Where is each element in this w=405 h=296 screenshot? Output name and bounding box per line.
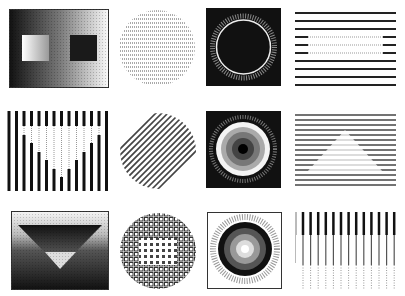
tile-black-ring [206,8,281,86]
pattern-image [118,8,196,88]
tile-horizontal-lines-gap [295,11,396,87]
tile-horizontal-lines-triangle [295,114,396,188]
tile-checker-disk [119,212,197,290]
tile-gradient-rectangles [9,9,109,88]
pattern-image [119,112,197,190]
pattern-image [7,111,109,191]
pattern-image [295,11,396,87]
tile-framed-rings [207,212,282,289]
pattern-image [206,111,281,188]
tile-dotted-disk [118,8,196,88]
pattern-image [206,8,281,86]
pattern-image [295,210,396,290]
pattern-image [11,211,109,290]
tile-vertical-lines-fade [295,210,396,290]
pattern-image [207,212,282,289]
pattern-image [119,212,197,290]
tile-gradient-triangles [11,211,109,290]
pattern-image [295,114,396,188]
tile-vertical-bars [7,111,109,191]
tile-concentric-target [206,111,281,188]
pattern-image [9,9,109,88]
tile-diagonal-disk [119,112,197,190]
